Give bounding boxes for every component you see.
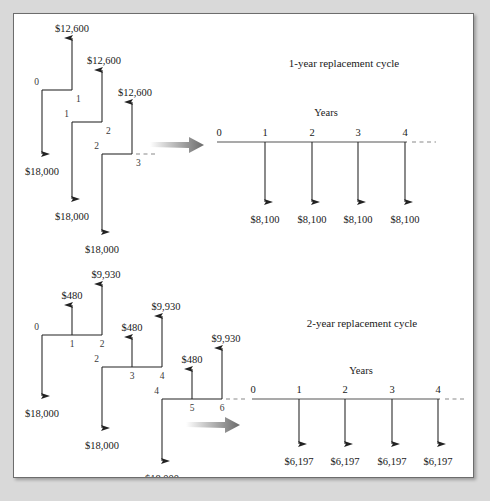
bottom-tick-label-4: 4 — [435, 384, 441, 395]
bottom-equivalence-arrow — [186, 417, 240, 433]
cash-flow-diagram: $12,600 $18,000 0 1 $12,600 $18,000 1 2 … — [14, 14, 473, 477]
tl-seg1-outflow-label: $18,000 — [25, 166, 59, 177]
top-left-cashflow-tree: $12,600 $18,000 0 1 $12,600 $18,000 1 2 … — [25, 23, 156, 255]
bl-segment-3: $480 $9,930 $18,000 4 5 6 — [145, 333, 241, 477]
bottom-tick-label-3: 3 — [389, 384, 394, 395]
bottom-flow-label-3: $6,197 — [378, 456, 407, 467]
bl-seg2-small-inflow-label: $480 — [122, 322, 143, 333]
bl-seg1-node-2: 2 — [100, 339, 105, 349]
bl-seg2-node-3: 3 — [130, 371, 135, 381]
top-flow-label-1: $8,100 — [251, 214, 280, 225]
bottom-years-label: Years — [349, 365, 372, 376]
top-right-timeline-panel: 1-year replacement cycle Years 0 1 2 3 4… — [216, 57, 436, 225]
bl-seg1-big-inflow-label: $9,930 — [92, 269, 121, 280]
top-equivalence-arrow — [150, 137, 204, 153]
bl-seg3-node-4: 4 — [154, 386, 159, 396]
figure-frame: $12,600 $18,000 0 1 $12,600 $18,000 1 2 … — [13, 13, 474, 478]
tl-seg1-inflow-label: $12,600 — [55, 23, 89, 34]
top-flow-label-2: $8,100 — [298, 214, 327, 225]
tl-seg3-node-2: 2 — [94, 141, 99, 151]
bottom-right-timeline-panel: 2-year replacement cycle Years 0 1 2 3 4… — [250, 317, 467, 467]
bl-seg1-small-inflow-label: $480 — [62, 290, 83, 301]
bl-seg3-outflow-label: $18,000 — [145, 473, 179, 477]
tl-seg2-outflow-label: $18,000 — [55, 211, 89, 222]
bl-seg2-big-inflow-label: $9,930 — [152, 301, 181, 312]
top-tick-label-0: 0 — [216, 127, 221, 138]
tl-segment-1: $12,600 $18,000 0 1 — [25, 23, 89, 177]
bottom-tick-label-2: 2 — [342, 384, 347, 395]
bl-segment-2: $480 $9,930 $18,000 2 3 4 — [85, 301, 181, 451]
bl-segment-1: $480 $9,930 $18,000 0 1 2 — [25, 269, 121, 419]
tl-segment-3: $12,600 $18,000 2 3 — [85, 87, 152, 255]
top-panel-title: 1-year replacement cycle — [289, 57, 400, 69]
bl-seg2-node-2: 2 — [94, 354, 99, 364]
bottom-tick-label-0: 0 — [250, 384, 255, 395]
tl-segment-2: $12,600 $18,000 1 2 — [55, 55, 121, 222]
top-tick-label-3: 3 — [355, 127, 360, 138]
bl-seg1-node-1: 1 — [70, 339, 75, 349]
top-flow-label-4: $8,100 — [391, 214, 420, 225]
bl-seg2-outflow-label: $18,000 — [85, 440, 119, 451]
bl-seg1-outflow-label: $18,000 — [25, 408, 59, 419]
bl-seg3-big-inflow-label: $9,930 — [212, 333, 241, 344]
tl-seg2-node-1: 1 — [64, 109, 69, 119]
bottom-panel-title: 2-year replacement cycle — [307, 317, 418, 329]
tl-seg1-node-1: 1 — [76, 94, 81, 104]
bottom-equivalence-arrow-shape — [186, 417, 240, 433]
top-years-label: Years — [314, 107, 337, 118]
tl-seg3-inflow-label: $12,600 — [118, 87, 152, 98]
bl-seg3-node-6: 6 — [220, 403, 225, 413]
bl-seg3-node-5: 5 — [190, 403, 195, 413]
tl-seg1-node-0: 0 — [34, 77, 39, 87]
top-tick-label-4: 4 — [402, 127, 408, 138]
bottom-tick-label-1: 1 — [296, 384, 301, 395]
bottom-flow-label-4: $6,197 — [424, 456, 453, 467]
bottom-flow-label-1: $6,197 — [285, 456, 314, 467]
tl-seg3-node-3: 3 — [136, 158, 141, 168]
bottom-flow-label-2: $6,197 — [331, 456, 360, 467]
tl-seg2-node-2: 2 — [106, 126, 111, 136]
tl-seg3-outflow-label: $18,000 — [85, 244, 119, 255]
tl-seg2-inflow-label: $12,600 — [87, 55, 121, 66]
bl-seg1-node-0: 0 — [34, 322, 39, 332]
bl-seg2-node-4: 4 — [160, 371, 165, 381]
top-tick-label-2: 2 — [309, 127, 314, 138]
bl-seg3-small-inflow-label: $480 — [182, 354, 203, 365]
top-equivalence-arrow-shape — [150, 137, 204, 153]
bottom-left-cashflow-tree: $480 $9,930 $18,000 0 1 2 $480 $9,930 $1… — [25, 269, 246, 477]
top-flow-label-3: $8,100 — [344, 214, 373, 225]
top-tick-label-1: 1 — [262, 127, 267, 138]
